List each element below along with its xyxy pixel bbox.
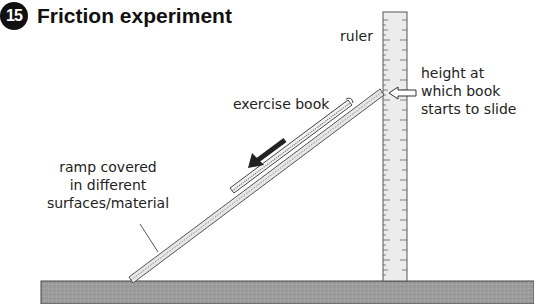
height-label-line-2: which book: [421, 82, 516, 100]
exercise-book-label: exercise book: [233, 95, 329, 113]
ramp-label-line-3: surfaces/material: [38, 194, 178, 212]
height-label-line-1: height at: [421, 64, 516, 82]
experiment-diagram: [0, 0, 534, 304]
ramp-leader-line: [140, 224, 158, 252]
ruler: [383, 12, 407, 281]
height-label: height at which book starts to slide: [421, 64, 516, 118]
height-label-line-3: starts to slide: [421, 100, 516, 118]
ruler-label: ruler: [340, 27, 373, 45]
ramp-label-line-1: ramp covered: [38, 158, 178, 176]
table-surface: [41, 281, 534, 304]
ramp-label: ramp covered in different surfaces/mater…: [38, 158, 178, 212]
ramp-label-line-2: in different: [38, 176, 178, 194]
